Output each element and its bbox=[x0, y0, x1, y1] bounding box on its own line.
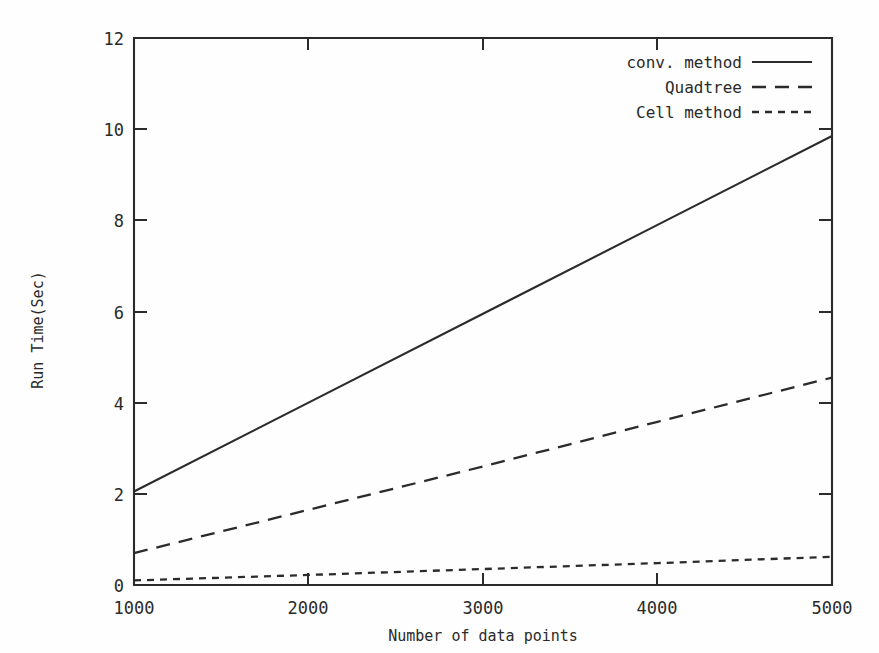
y-tick-label-4: 4 bbox=[114, 394, 124, 414]
x-tick-label-2000: 2000 bbox=[288, 598, 329, 618]
legend: conv. method Quadtree Cell method bbox=[626, 53, 812, 122]
x-axis-title: Number of data points bbox=[388, 627, 578, 645]
y-tick-label-8: 8 bbox=[114, 211, 124, 231]
legend-label-cell-method: Cell method bbox=[636, 103, 742, 122]
x-tick-label-1000: 1000 bbox=[114, 598, 155, 618]
x-tick-label-5000: 5000 bbox=[812, 598, 853, 618]
run-time-line-chart: 0 2 4 6 8 10 12 1000 2000 3000 4000 5000… bbox=[0, 0, 879, 653]
chart-page: 0 2 4 6 8 10 12 1000 2000 3000 4000 5000… bbox=[0, 0, 879, 653]
series-line-conv-method bbox=[134, 136, 832, 492]
legend-label-quadtree: Quadtree bbox=[665, 78, 742, 97]
x-tick-label-3000: 3000 bbox=[463, 598, 504, 618]
y-axis-title: Run Time(Sec) bbox=[29, 271, 47, 388]
y-tick-label-0: 0 bbox=[114, 576, 124, 596]
legend-label-conv-method: conv. method bbox=[626, 53, 742, 72]
y-tick-label-12: 12 bbox=[104, 29, 124, 49]
series-line-quadtree bbox=[134, 378, 832, 553]
y-tick-label-10: 10 bbox=[104, 120, 124, 140]
y-tick-label-2: 2 bbox=[114, 485, 124, 505]
y-tick-label-6: 6 bbox=[114, 303, 124, 323]
x-tick-label-4000: 4000 bbox=[637, 598, 678, 618]
